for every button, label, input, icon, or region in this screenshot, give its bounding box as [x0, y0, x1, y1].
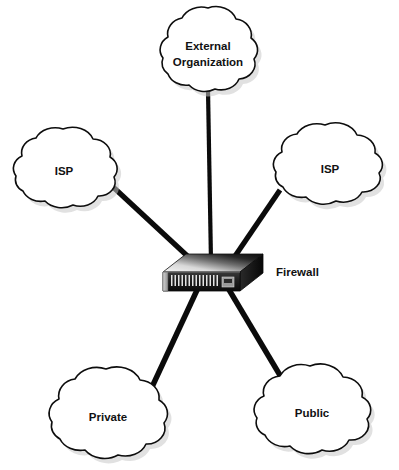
cloud-label-isp-left: ISP — [55, 165, 74, 177]
link-public — [228, 288, 284, 382]
link-isp-left — [112, 186, 196, 264]
device-label-firewall: Firewall — [276, 266, 319, 278]
node-isp-right[interactable]: ISP — [273, 123, 386, 209]
cloud-label-isp-right: ISP — [321, 163, 340, 175]
cloud-label-external-organization-line2: Organization — [173, 56, 243, 68]
firewall-left-bezel — [163, 272, 168, 291]
cloud-label-public: Public — [295, 407, 330, 419]
link-private — [152, 288, 198, 387]
node-external-organization[interactable]: External Organization — [160, 7, 261, 97]
node-public[interactable]: Public — [254, 364, 375, 459]
node-isp-left[interactable]: ISP — [13, 127, 121, 212]
network-diagram: External Organization ISP ISP Private Pu… — [0, 0, 399, 470]
firewall-port-inner — [224, 279, 232, 283]
cloud-label-private: Private — [89, 411, 127, 423]
link-external-organization — [208, 90, 211, 262]
node-firewall[interactable]: Firewall — [163, 254, 319, 291]
cloud-label-external-organization-line1: External — [185, 40, 230, 52]
diagram-svg: External Organization ISP ISP Private Pu… — [0, 0, 399, 470]
link-isp-right — [231, 190, 280, 262]
link-group — [112, 90, 284, 387]
